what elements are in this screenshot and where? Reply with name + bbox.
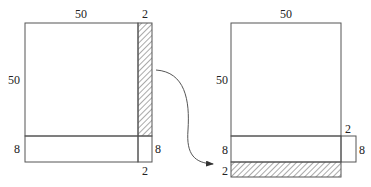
right-bottom-strip-height-label: 8 xyxy=(222,143,228,157)
left-corner-box xyxy=(138,136,152,162)
left-hatched-strip xyxy=(138,23,152,136)
left-height-label: 50 xyxy=(8,73,20,87)
right-figure: 50 50 2 8 8 2 xyxy=(216,7,365,178)
right-corner-width-label: 2 xyxy=(345,122,351,136)
left-strip-width-label: 2 xyxy=(142,7,148,21)
left-corner-height-label: 8 xyxy=(155,142,161,156)
left-width-label: 50 xyxy=(75,7,87,21)
right-height-label: 50 xyxy=(216,73,228,87)
diagram-canvas: 50 2 50 8 8 2 50 50 2 8 8 2 xyxy=(0,0,371,187)
left-main-square xyxy=(25,23,138,136)
right-hatched-height-label: 2 xyxy=(222,164,228,178)
right-hatched-strip xyxy=(231,162,341,177)
right-width-label: 50 xyxy=(280,7,292,21)
right-bottom-strip xyxy=(231,136,341,162)
right-corner-height-label: 8 xyxy=(359,143,365,157)
left-bottom-strip xyxy=(25,136,138,162)
right-main-square xyxy=(231,23,341,136)
left-corner-width-label: 2 xyxy=(142,164,148,178)
move-arrow xyxy=(156,70,213,164)
left-bottom-strip-height-label: 8 xyxy=(14,142,20,156)
right-corner-box xyxy=(341,136,356,162)
left-figure: 50 2 50 8 8 2 xyxy=(8,7,161,178)
